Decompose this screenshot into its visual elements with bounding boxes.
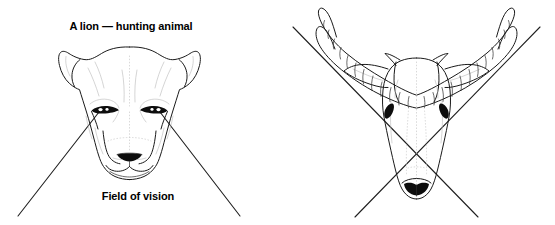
- antelope-left-horn: [316, 8, 416, 108]
- antelope-horn-bases: [394, 62, 439, 102]
- lion-forehead-shading: [88, 56, 171, 106]
- antelope-drawing: [278, 0, 555, 225]
- lion-title: A lion — hunting animal: [69, 20, 192, 33]
- lion-panel: A lion — hunting animal Field of vision: [0, 0, 278, 225]
- antelope-right-horn: [417, 8, 517, 108]
- antelope-panel: An antelope —defensive animal Field of v…: [278, 0, 555, 225]
- lion-muzzle: [103, 112, 156, 177]
- field-of-vision-figure: A lion — hunting animal Field of vision: [0, 0, 555, 225]
- lion-field-of-vision-label: Field of vision: [102, 190, 174, 203]
